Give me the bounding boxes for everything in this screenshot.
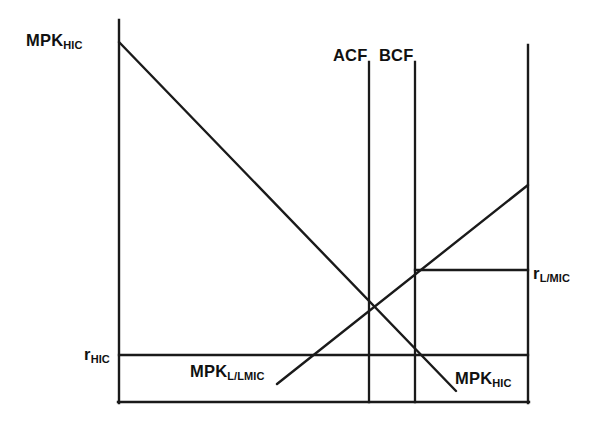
label-r-hic-sub: HIC [91, 353, 110, 365]
label-r-lmic-base: r [533, 264, 540, 282]
label-r-lmic-sub: L/MIC [540, 272, 570, 284]
label-mpk-llmic: MPKL/LMIC [190, 363, 265, 380]
label-mpk-llmic-sub: L/LMIC [227, 370, 264, 382]
label-r-hic-base: r [84, 345, 91, 363]
label-r-hic: rHIC [84, 346, 110, 363]
label-acf: ACF [333, 47, 368, 64]
label-mpk-hic-top: MPKHIC [26, 32, 83, 49]
label-mpk-hic-top-base: MPK [26, 31, 63, 49]
label-r-lmic: rL/MIC [533, 265, 570, 282]
label-mpk-hic-bottom: MPKHIC [455, 370, 512, 387]
label-acf-base: ACF [333, 46, 368, 64]
label-mpk-hic-top-sub: HIC [63, 39, 82, 51]
mpk-hic-curve [119, 42, 456, 391]
label-bcf-base: BCF [379, 46, 414, 64]
label-bcf: BCF [379, 47, 414, 64]
label-mpk-llmic-base: MPK [190, 362, 227, 380]
economics-diagram: MPKHIC ACF BCF rL/MIC rHIC MPKL/LMIC MPK… [0, 0, 595, 425]
label-mpk-hic-bottom-base: MPK [455, 369, 492, 387]
label-mpk-hic-bottom-sub: HIC [492, 377, 511, 389]
